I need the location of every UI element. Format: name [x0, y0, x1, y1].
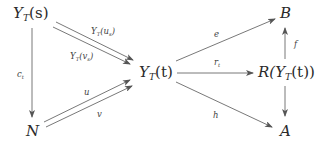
- label-n-yt-upper: u: [84, 88, 89, 97]
- label-close: ): [112, 26, 115, 36]
- node-b: B: [280, 6, 291, 21]
- node-base: Y: [275, 63, 285, 81]
- label-ys-yt-upper: YT(us): [91, 27, 115, 37]
- arrow-yt-a: [176, 82, 272, 127]
- node-prefix: R(: [258, 63, 275, 81]
- commutative-diagram: YT(s) B YT(t) R(YT(t)) N A YT(us) YT(vs)…: [0, 0, 326, 142]
- node-a: A: [280, 124, 291, 139]
- label-close: ): [90, 51, 93, 61]
- node-n: N: [26, 124, 39, 139]
- node-y-t-s: YT(s): [13, 6, 49, 22]
- label-sub: t: [218, 62, 220, 68]
- node-r-y-t-t: R(YT(t)): [258, 65, 315, 81]
- label-yt-r: rt: [214, 58, 220, 68]
- label-sub: t: [22, 74, 24, 80]
- node-arg: (s): [29, 4, 48, 22]
- node-base: Y: [13, 4, 23, 22]
- label-ys-yt-lower: YT(vs): [70, 52, 93, 62]
- node-y-t-t: YT(t): [139, 65, 173, 81]
- arrow-yt-b: [176, 19, 275, 61]
- label-ys-n: ct: [17, 70, 24, 80]
- label-yt-b: e: [214, 30, 219, 39]
- node-arg: (t): [155, 63, 173, 81]
- label-r-b: f: [294, 40, 297, 49]
- label-n-yt-lower: v: [97, 110, 102, 119]
- label-yt-a: h: [213, 111, 218, 120]
- node-arg: (t)): [291, 63, 315, 81]
- label-arg: (u: [100, 26, 109, 36]
- node-base: Y: [139, 63, 149, 81]
